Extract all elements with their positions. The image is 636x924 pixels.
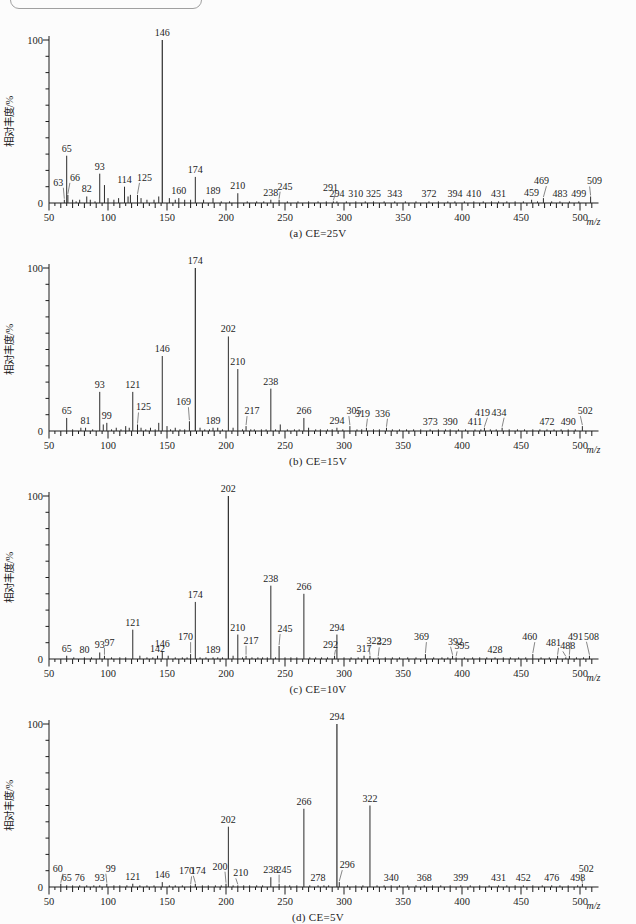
leader-line (586, 642, 589, 655)
peak-label: 174 (188, 255, 203, 266)
x-axis-label: m/z (587, 216, 601, 227)
svg-text:50: 50 (44, 668, 55, 679)
spectrum-svg-c: 100050100150200250300350400450500相对丰度/%m… (0, 468, 636, 683)
peak-label: 146 (155, 638, 170, 649)
leader-line (563, 651, 566, 656)
peak-label: 146 (155, 27, 170, 38)
peak-label: 202 (221, 814, 236, 825)
peak-label: 93 (95, 639, 105, 650)
peak-label: 372 (421, 188, 436, 199)
peak-label: 472 (539, 416, 554, 427)
peaks (67, 496, 590, 659)
peak-label: 419 (475, 407, 490, 418)
svg-text:100: 100 (27, 491, 43, 502)
peak-label: 294 (329, 188, 344, 199)
svg-text:500: 500 (572, 896, 588, 907)
chart-caption-c: (c) CE=10V (0, 683, 636, 696)
leader-line (533, 642, 535, 653)
peak-label: 202 (221, 323, 236, 334)
svg-text:250: 250 (277, 668, 293, 679)
peak-label: 278 (311, 872, 326, 883)
peak-label: 460 (522, 631, 537, 642)
leader-line (246, 416, 247, 425)
peak-label: 481 (546, 637, 561, 648)
peak-label: 490 (561, 416, 576, 427)
peak-label: 99 (102, 410, 112, 421)
peak-label: 325 (366, 188, 381, 199)
peak-label: 459 (524, 187, 539, 198)
peak-label: 66 (70, 172, 80, 183)
peak-label: 93 (95, 379, 105, 390)
y-axis-label: 相对丰度/% (3, 779, 15, 831)
svg-text:300: 300 (336, 668, 352, 679)
leader-line (63, 188, 64, 199)
peak-label: 266 (296, 796, 311, 807)
peak-label: 80 (79, 644, 89, 655)
peak-labels: 6581939912112514616917418920221021723826… (62, 255, 593, 427)
peak-label: 428 (488, 644, 503, 655)
peak-label: 373 (423, 416, 438, 427)
axes (43, 720, 599, 895)
peak-label: 410 (466, 188, 481, 199)
peak-label: 76 (75, 872, 85, 883)
peak-label: 469 (534, 175, 549, 186)
svg-text:400: 400 (454, 896, 470, 907)
peak-label: 329 (377, 636, 392, 647)
peak-label: 65 (62, 143, 72, 154)
x-axis-label: m/z (587, 900, 601, 911)
peak-label: 210 (230, 356, 245, 367)
svg-text:0: 0 (38, 882, 43, 893)
peak-label: 395 (455, 640, 470, 651)
svg-text:450: 450 (513, 668, 529, 679)
peak-label: 121 (125, 379, 140, 390)
peak-label: 319 (355, 408, 370, 419)
peak-label: 189 (206, 415, 221, 426)
svg-text:100: 100 (100, 668, 116, 679)
peak-label: 245 (277, 864, 292, 875)
svg-text:300: 300 (336, 212, 352, 223)
svg-text:400: 400 (454, 440, 470, 451)
peak-label: 294 (329, 622, 344, 633)
leader-line (580, 416, 582, 425)
peak-label: 121 (125, 871, 140, 882)
leader-line (138, 412, 139, 423)
svg-text:450: 450 (513, 896, 529, 907)
leader-line (335, 650, 336, 655)
svg-text:100: 100 (27, 263, 43, 274)
spectrum-svg-b: 100050100150200250300350400450500相对丰度/%m… (0, 240, 636, 455)
y-axis-label: 相对丰度/% (3, 95, 15, 147)
svg-text:350: 350 (395, 668, 411, 679)
peak-label: 368 (417, 872, 432, 883)
peak-label: 174 (188, 164, 203, 175)
chart-caption-b: (b) CE=15V (0, 455, 636, 468)
peak-label: 97 (104, 637, 114, 648)
svg-text:100: 100 (100, 440, 116, 451)
peak-labels: 6365668293114125146160174189210238245291… (53, 27, 602, 200)
peak-label: 411 (468, 416, 483, 427)
svg-text:150: 150 (159, 668, 175, 679)
spectrum-b: 100050100150200250300350400450500相对丰度/%m… (0, 240, 636, 468)
leader-line (225, 872, 226, 883)
peak-label: 169 (176, 396, 191, 407)
svg-text:150: 150 (159, 896, 175, 907)
peak-label: 452 (516, 872, 531, 883)
leader-line (451, 647, 453, 655)
peaks (61, 724, 583, 887)
peak-label: 483 (552, 188, 567, 199)
leader-line (425, 642, 426, 653)
peak-label: 174 (191, 865, 206, 876)
partial-stamp-outline (10, 0, 202, 9)
leader-line (188, 407, 189, 420)
leader-line (191, 876, 192, 884)
axes (43, 492, 599, 667)
svg-text:100: 100 (100, 896, 116, 907)
peak-label: 491 (568, 631, 583, 642)
leader-line (456, 651, 457, 656)
spectrum-plot-c: 100050100150200250300350400450500相对丰度/%m… (0, 468, 636, 683)
peak-labels: 6065769399121146170174200202210238245266… (53, 711, 594, 884)
svg-text:50: 50 (44, 440, 55, 451)
peak-label: 170 (178, 631, 193, 642)
svg-text:100: 100 (100, 212, 116, 223)
peak-label: 200 (213, 861, 228, 872)
peak-label: 499 (571, 188, 586, 199)
